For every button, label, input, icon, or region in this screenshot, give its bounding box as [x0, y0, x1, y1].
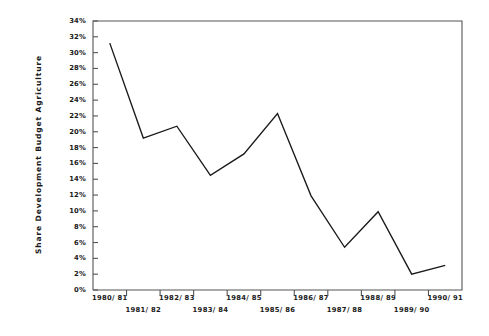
x-axis-tick-marks [127, 290, 429, 296]
plot-frame [93, 21, 462, 290]
data-series-line [110, 43, 445, 274]
chart-figure: Share Development Budget Agriculture 34%… [0, 0, 489, 336]
plot-area [0, 0, 489, 336]
y-axis-tick-marks [93, 21, 98, 290]
